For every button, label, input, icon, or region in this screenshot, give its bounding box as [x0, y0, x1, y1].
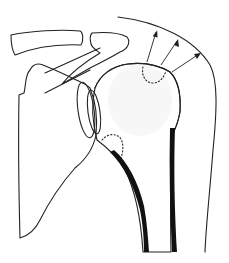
clavicle: [11, 30, 83, 55]
medial-cortex: [110, 150, 149, 252]
humeral-head-highlight: [108, 64, 172, 136]
shoulder-diagram: [0, 0, 229, 263]
coracoid-line-lower: [45, 70, 90, 93]
arrow-icon-3: [172, 53, 201, 72]
coracoid-line-upper: [45, 48, 100, 73]
arrow-icon-2: [161, 39, 179, 65]
scapula-body: [19, 64, 97, 238]
arrow-icon-1: [147, 29, 160, 62]
